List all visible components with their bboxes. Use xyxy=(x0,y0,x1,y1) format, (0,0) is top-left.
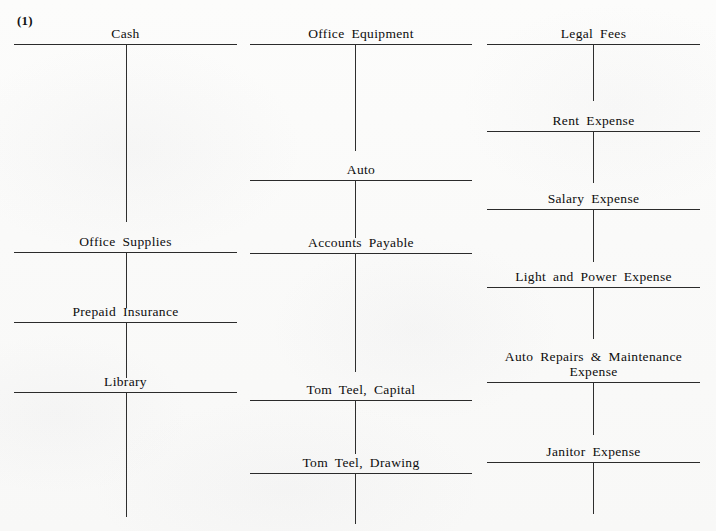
t-account-rule-auto xyxy=(250,180,472,181)
t-account-rule-accounts-payable xyxy=(250,253,472,254)
t-account-rule-tom-teel-capital xyxy=(250,400,472,401)
t-account-title-prepaid-insurance: Prepaid Insurance xyxy=(14,304,237,319)
t-account-title-tom-teel-capital: Tom Teel, Capital xyxy=(250,382,472,397)
t-account-stem-salary-expense xyxy=(593,209,594,262)
t-account-rule-tom-teel-drawing xyxy=(250,473,472,474)
t-account-title-accounts-payable: Accounts Payable xyxy=(250,235,472,250)
t-account-title-light-and-power-expense: Light and Power Expense xyxy=(487,269,700,284)
t-account-title-tom-teel-drawing: Tom Teel, Drawing xyxy=(250,455,472,470)
t-account-stem-janitor-expense xyxy=(593,462,594,514)
t-account-stem-cash xyxy=(126,44,127,222)
t-account-stem-legal-fees xyxy=(593,44,594,101)
t-account-title-cash: Cash xyxy=(14,26,237,41)
t-account-rule-office-equipment xyxy=(250,44,472,45)
t-account-stem-auto-repairs-and-maintenance-expense xyxy=(593,382,594,435)
t-account-stem-prepaid-insurance xyxy=(126,322,127,378)
t-account-title-office-supplies: Office Supplies xyxy=(14,234,237,249)
t-account-stem-office-equipment xyxy=(355,44,356,151)
t-account-title-salary-expense: Salary Expense xyxy=(487,191,700,206)
t-account-title-auto: Auto xyxy=(250,162,472,177)
t-account-stem-office-supplies xyxy=(126,252,127,308)
t-account-stem-library xyxy=(126,392,127,517)
t-account-stem-rent-expense xyxy=(593,131,594,183)
t-account-stem-auto xyxy=(355,180,356,238)
t-account-stem-accounts-payable xyxy=(355,253,356,372)
t-account-title-office-equipment: Office Equipment xyxy=(250,26,472,41)
t-account-stem-tom-teel-drawing xyxy=(355,473,356,524)
t-account-title-auto-repairs-and-maintenance-expense: Auto Repairs & Maintenance Expense xyxy=(487,349,700,379)
worksheet-page: (1) CashOffice SuppliesPrepaid Insurance… xyxy=(0,0,716,531)
t-account-title-library: Library xyxy=(14,374,237,389)
t-account-title-legal-fees: Legal Fees xyxy=(487,26,700,41)
t-account-title-rent-expense: Rent Expense xyxy=(487,113,700,128)
t-account-stem-tom-teel-capital xyxy=(355,400,356,454)
t-account-stem-light-and-power-expense xyxy=(593,287,594,339)
t-account-title-janitor-expense: Janitor Expense xyxy=(487,444,700,459)
